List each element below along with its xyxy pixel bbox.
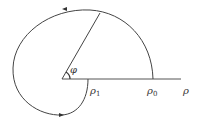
rho0-label: ρ0 [146, 85, 157, 98]
spiral-curve [13, 10, 153, 115]
spiral-diagram: φ ρ1 ρ0 ρ [0, 0, 199, 120]
radius-line [62, 13, 100, 79]
arrow-bottom-icon [59, 113, 64, 117]
angle-label: φ [70, 64, 77, 75]
axis-label: ρ [182, 85, 189, 96]
arrow-top-icon [62, 7, 67, 11]
rho1-label: ρ1 [89, 85, 100, 98]
